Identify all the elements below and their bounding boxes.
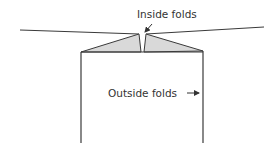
inside-folds-arrow — [145, 24, 152, 32]
right-outer-flap-line — [146, 27, 264, 34]
outside-folds-label: Outside folds — [108, 87, 177, 99]
left-outer-flap-line — [20, 30, 139, 34]
right-inside-flap — [144, 34, 203, 52]
left-inside-flap — [81, 34, 141, 52]
inside-folds-label: Inside folds — [137, 8, 197, 20]
box-fold-diagram: Inside folds Outside folds — [0, 0, 276, 155]
